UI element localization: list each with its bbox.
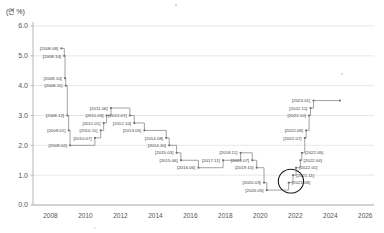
svg-text:[2019.10]: [2019.10] <box>235 165 253 170</box>
svg-text:[2022.08]: [2022.08] <box>285 128 303 133</box>
svg-text:[2022.01]: [2022.01] <box>299 165 317 170</box>
rate-step-series <box>61 48 340 190</box>
svg-text:[2008.12]: [2008.12] <box>46 113 64 118</box>
svg-text:2022: 2022 <box>288 212 303 219</box>
svg-text:[2011.01]: [2011.01] <box>82 121 100 126</box>
chart-plot-area: 0.01.02.03.04.05.06.0 200820102012201420… <box>0 0 384 233</box>
svg-text:[2008.11]: [2008.11] <box>45 83 63 88</box>
svg-text:[2013.05]: [2013.05] <box>123 128 141 133</box>
svg-text:[2023.01]: [2023.01] <box>292 98 310 103</box>
svg-text:[2022.10]: [2022.10] <box>288 113 306 118</box>
svg-text:2018: 2018 <box>218 212 233 219</box>
svg-text:2010: 2010 <box>78 212 93 219</box>
svg-text:[2021.11]: [2021.11] <box>296 173 314 178</box>
svg-text:[2008.08]: [2008.08] <box>40 46 58 51</box>
svg-text:[2022.07]: [2022.07] <box>283 136 301 141</box>
svg-text:[2022.11]: [2022.11] <box>289 106 307 111</box>
svg-text:[2010.11]: [2010.11] <box>79 128 97 133</box>
svg-text:[2022.05]: [2022.05] <box>305 150 323 155</box>
gridlines <box>33 26 374 205</box>
svg-text:2.0: 2.0 <box>18 142 28 149</box>
y-axis-ticks: 0.01.02.03.04.05.06.0 <box>18 22 33 208</box>
svg-text:1.0: 1.0 <box>18 172 28 179</box>
svg-text:3.0: 3.0 <box>18 112 28 119</box>
svg-text:2024: 2024 <box>323 212 338 219</box>
svg-text:2026: 2026 <box>358 212 373 219</box>
svg-text:[2022.04]: [2022.04] <box>304 158 322 163</box>
svg-text:[2015.03]: [2015.03] <box>155 150 173 155</box>
svg-text:2008: 2008 <box>43 212 58 219</box>
svg-text:[2020.03]: [2020.03] <box>242 180 260 185</box>
svg-text:[2011.06]: [2011.06] <box>90 106 108 111</box>
svg-text:[2009.02]: [2009.02] <box>49 143 67 148</box>
svg-text:4.0: 4.0 <box>18 82 28 89</box>
svg-text:[2010.07]: [2010.07] <box>73 136 91 141</box>
svg-text:[2016.06]: [2016.06] <box>177 165 195 170</box>
svg-text:[2011.03]: [2011.03] <box>85 113 103 118</box>
svg-text:2014: 2014 <box>148 212 163 219</box>
svg-text:[2014.08]: [2014.08] <box>145 136 163 141</box>
svg-text:[2008.10]: [2008.10] <box>43 54 61 59</box>
svg-text:[2012.07]: [2012.07] <box>108 113 126 118</box>
svg-text:[2009.01]: [2009.01] <box>47 128 65 133</box>
svg-text:[2019.07]: [2019.07] <box>231 158 249 163</box>
axis-lines <box>33 22 374 205</box>
interest-rate-chart: (연 %) 0.01.02.03.04.05.06.0 200820102012… <box>0 0 384 233</box>
svg-text:[2008.10]: [2008.10] <box>43 76 61 81</box>
svg-text:[2015.06]: [2015.06] <box>159 158 177 163</box>
svg-text:2016: 2016 <box>183 212 198 219</box>
svg-text:[2020.05]: [2020.05] <box>245 188 263 193</box>
svg-text:[2012.10]: [2012.10] <box>113 121 131 126</box>
x-axis-ticks: 2008201020122014201620182020202220242026 <box>43 212 373 219</box>
data-point-labels: [2008.08][2008.10][2008.10][2008.11][200… <box>40 46 323 193</box>
svg-text:2012: 2012 <box>113 212 128 219</box>
svg-text:[2021.08]: [2021.08] <box>292 180 310 185</box>
svg-text:[2017.11]: [2017.11] <box>202 158 220 163</box>
svg-text:6.0: 6.0 <box>18 22 28 29</box>
svg-text:0.0: 0.0 <box>18 201 28 208</box>
svg-text:2020: 2020 <box>253 212 268 219</box>
svg-text:5.0: 5.0 <box>18 52 28 59</box>
svg-text:[2018.11]: [2018.11] <box>219 150 237 155</box>
svg-text:[2014.10]: [2014.10] <box>148 143 166 148</box>
